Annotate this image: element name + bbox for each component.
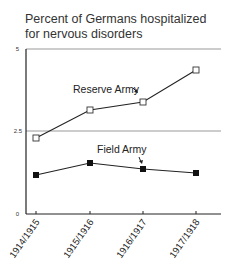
field-army-marker [140, 166, 146, 172]
y-tick-label-0: 0 [16, 211, 20, 217]
reserve-army-marker [87, 107, 93, 113]
field-army-arrowhead-icon [139, 160, 143, 164]
y-tick-label-2-5: 2.5 [14, 128, 23, 134]
reserve-army-line [36, 70, 196, 138]
x-category-label: 1916/1917 [114, 217, 149, 260]
x-category-label: 1917/1918 [167, 217, 202, 260]
field-army-line [36, 163, 196, 175]
field-army-marker [87, 160, 93, 166]
reserve-army-marker [140, 99, 146, 105]
field-army-marker [193, 170, 199, 176]
x-category-label: 1914/1915 [7, 217, 42, 260]
line-chart: 5 2.5 0 1914/1915 1915/1916 1916/1917 19… [0, 0, 237, 274]
reserve-army-marker [33, 135, 39, 141]
x-category-label: 1915/1916 [61, 217, 96, 260]
y-tick-label-5: 5 [16, 46, 20, 52]
reserve-army-marker [193, 67, 199, 73]
field-army-annotation: Field Army [97, 143, 147, 155]
reserve-army-annotation: Reserve Army [73, 83, 140, 95]
field-army-marker [33, 172, 39, 178]
